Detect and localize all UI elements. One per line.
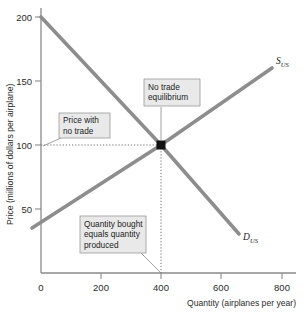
x-tick-label-800: 800 xyxy=(274,282,290,293)
x-tick-label-600: 600 xyxy=(213,282,229,293)
price-no-trade-line-1: Price with xyxy=(63,115,99,125)
supply-curve-label-sub: US xyxy=(281,61,290,68)
supply-curve-label: SUS xyxy=(276,56,290,68)
demand-curve-label-sub: US xyxy=(250,237,259,244)
y-axis-title: Price (millions of dollars per airplane) xyxy=(5,83,15,225)
x-tick-label-200: 200 xyxy=(93,282,109,293)
demand-curve-label: DUS xyxy=(242,232,259,244)
price-no-trade-line-2: no trade xyxy=(63,126,94,136)
x-axis xyxy=(41,273,296,279)
annotation-no-trade-equilibrium: No trade equilibrium xyxy=(144,79,200,141)
annotation-price-no-trade: Price with no trade xyxy=(43,113,110,146)
annotation-quantity-bought: Quantity bought equals quantity produced xyxy=(80,216,160,272)
demand-curve-label-main: D xyxy=(242,232,250,242)
y-tick-label-50: 50 xyxy=(21,204,32,215)
chart-figure: 200 150 100 50 0 200 400 600 800 Price (… xyxy=(0,0,305,314)
y-tick-label-100: 100 xyxy=(16,140,32,151)
quantity-bought-line-1: Quantity bought xyxy=(84,219,143,229)
no-trade-equilibrium-line-1: No trade xyxy=(148,82,180,92)
quantity-bought-line-2: equals quantity xyxy=(84,229,141,239)
x-tick-label-0: 0 xyxy=(38,282,43,293)
equilibrium-marker xyxy=(157,141,166,150)
no-trade-equilibrium-line-2: equilibrium xyxy=(148,92,188,102)
y-tick-label-200: 200 xyxy=(16,12,32,23)
x-axis-title: Quantity (airplanes per year) xyxy=(187,298,296,308)
y-tick-label-150: 150 xyxy=(16,76,32,87)
x-tick-label-400: 400 xyxy=(153,282,169,293)
y-axis xyxy=(35,8,41,273)
quantity-bought-line-3: produced xyxy=(84,240,119,250)
